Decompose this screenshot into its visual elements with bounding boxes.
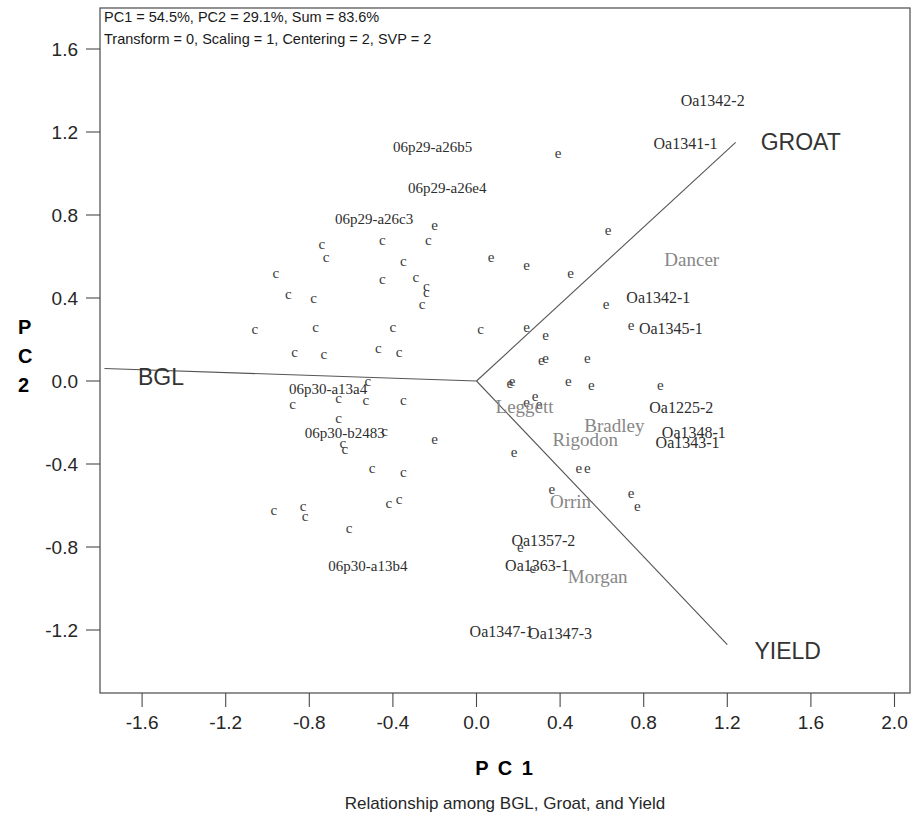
genotype-point: c [385,495,392,511]
biplot-canvas: -1.6-1.2-0.8-0.40.00.40.81.21.62.0-1.2-0… [0,0,917,819]
environment-point: e [523,319,530,335]
point-label: 06p30-b2483 [305,425,385,441]
x-axis-tick-label: 0.4 [547,712,574,733]
point-label: Orrin [550,491,592,512]
x-axis-tick-label: -1.6 [126,712,159,733]
point-labels-group: 06p29-a26b506p29-a26e406p29-a26c306p30-a… [289,92,745,642]
biplot-figure: -1.6-1.2-0.8-0.40.00.40.81.21.62.0-1.2-0… [0,0,917,819]
plot-frame [100,8,910,693]
point-label: Oa1225-2 [649,399,713,416]
x-axis-tick-label: -0.8 [293,712,326,733]
genotype-point: c [312,319,319,335]
genotype-point: c [291,344,298,360]
y-axis-tick-label: -1.2 [45,620,78,641]
environment-point: e [634,498,641,514]
genotype-point: c [375,340,382,356]
y-axis-tick-label: -0.8 [45,537,78,558]
genotype-point: c [323,249,330,265]
x-axis-tick-label: 0.8 [630,712,656,733]
genotype-point: c [321,346,328,362]
environment-point: e [657,377,664,393]
point-label: 06p29-a26e4 [408,180,487,196]
y-axis-tick-label: 0.4 [52,288,79,309]
point-label: 06p30-a13b4 [328,558,408,574]
variance-explained-text: PC1 = 54.5%, PC2 = 29.1%, Sum = 83.6% [104,9,379,25]
plot-frame-group [100,8,910,693]
environment-point: e [576,460,583,476]
vector-label-groat: GROAT [761,129,841,155]
environment-point: e [588,377,595,393]
biplot-options-text: Transform = 0, Scaling = 1, Centering = … [104,31,431,47]
genotype-point: c [346,520,353,536]
y-axis-tick-label: -0.4 [45,454,78,475]
genotype-point: c [413,269,420,285]
environment-point: e [584,350,591,366]
genotype-point: c [273,265,280,281]
environment-point: e [555,145,562,161]
x-axis-tick-label: -1.2 [209,712,242,733]
figure-caption: Relationship among BGL, Groat, and Yield [345,794,665,813]
point-label: Oa1345-1 [639,320,703,337]
environment-point: e [567,265,574,281]
genotype-point: c [425,232,432,248]
genotype-point: c [310,290,317,306]
genotype-point: c [289,396,296,412]
genotype-point: c [390,319,397,335]
trait-vectors-group [104,142,735,644]
y-axis-title-char-0: P [18,316,33,338]
point-label: Oa1341-1 [654,135,718,152]
point-label: 06p30-a13a4 [289,381,368,397]
y-axis-title-char-1: C [18,345,34,367]
x-axis-title: P C 1 [475,757,535,779]
environment-point: e [431,217,438,233]
genotype-point: c [396,344,403,360]
point-label: 06p29-a26b5 [393,139,472,155]
genotype-point: c [252,321,259,337]
genotype-point: c [369,460,376,476]
y-axis-tick-label: 1.2 [52,122,78,143]
point-label: Morgan [568,566,628,587]
point-label: Oa1342-2 [681,92,745,109]
vector-label-bgl: BGL [138,364,184,390]
genotype-point: c [400,464,407,480]
data-points-group: ccccccccccccccccccccccccccccccccccccccee… [252,145,664,576]
genotype-point: c [477,321,484,337]
environment-point: e [431,431,438,447]
environment-point: e [584,460,591,476]
environment-point: e [507,375,514,391]
genotype-point: c [379,271,386,287]
environment-point: e [488,249,495,265]
genotype-point: c [419,296,426,312]
x-axis-tick-label: 0.0 [463,712,489,733]
point-label: Oa1342-1 [626,289,690,306]
x-axis-tick-label: -0.4 [377,712,410,733]
y-axis-title-char-2: 2 [18,374,31,396]
genotype-point: c [400,392,407,408]
point-label: Oa1347-1 [470,623,534,640]
vector-label-yield: YIELD [754,638,820,664]
genotype-point: c [302,508,309,524]
environment-point: e [542,350,549,366]
y-axis-tick-label: 0.0 [52,371,78,392]
environment-point: e [565,373,572,389]
environment-point: e [511,444,518,460]
point-label: Oa1363-1 [505,557,569,574]
point-label: Rigodon [552,429,618,450]
point-label: Oa1343-1 [656,434,720,451]
y-axis-tick-label: 1.6 [52,39,78,60]
x-axis-tick-label: 1.2 [714,712,740,733]
environment-point: e [628,317,635,333]
environment-point: e [523,257,530,273]
genotype-point: c [270,502,277,518]
genotype-point: c [379,232,386,248]
x-axis-tick-label: 1.6 [798,712,824,733]
point-label: Dancer [664,249,720,270]
environment-point: e [603,296,610,312]
point-label: 06p29-a26c3 [335,211,413,227]
y-axis-tick-label: 0.8 [52,205,78,226]
point-label: Oa1347-3 [528,625,592,642]
point-label: Oa1357-2 [511,532,575,549]
vector-labels-group: BGLGROATYIELD [138,129,841,663]
environment-point: e [542,327,549,343]
genotype-point: c [400,253,407,269]
